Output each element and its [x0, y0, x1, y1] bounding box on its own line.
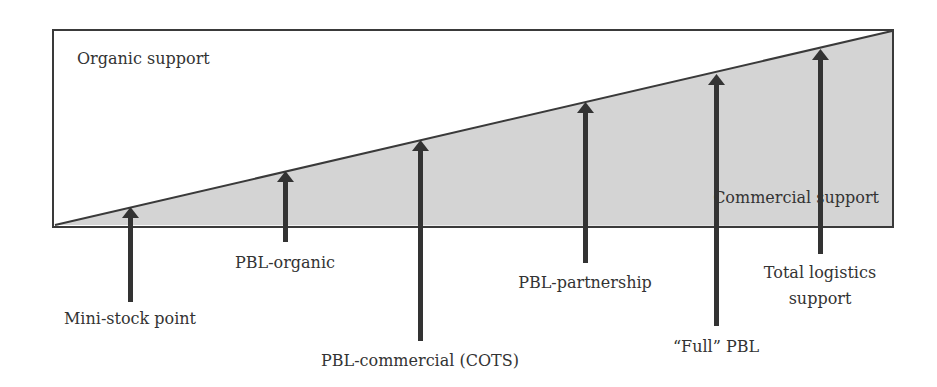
- label-pbl-organic: PBL-organic: [235, 253, 335, 272]
- organic-support-label: Organic support: [77, 49, 210, 68]
- support-spectrum-diagram: Organic support Commercial support Mini-…: [0, 0, 937, 387]
- label-mini-stock-point: Mini-stock point: [64, 309, 197, 328]
- label-pbl-commercial: PBL-commercial (COTS): [321, 351, 519, 370]
- label-total-logistics-line2: support: [789, 289, 852, 308]
- commercial-support-label: Commercial support: [713, 188, 879, 207]
- label-full-pbl: “Full” PBL: [673, 337, 760, 356]
- label-pbl-partnership: PBL-partnership: [518, 273, 652, 292]
- label-total-logistics-line1: Total logistics: [764, 263, 876, 282]
